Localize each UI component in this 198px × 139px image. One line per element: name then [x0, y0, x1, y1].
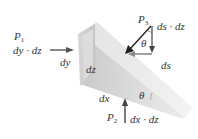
dz-label: dz — [86, 64, 96, 75]
dx-label: dx — [99, 93, 109, 104]
ds-label: ds — [161, 60, 171, 71]
p3-label: P3 — [138, 14, 148, 27]
p1-label: P1 — [14, 31, 24, 44]
p3-force-arrow — [125, 26, 151, 54]
p3-area-label: ds · dz — [157, 21, 185, 32]
p2-area-label: dx · dz — [130, 114, 158, 125]
theta-bottom-label: θ — [139, 90, 144, 101]
p1-subscript: 1 — [21, 36, 25, 44]
p2-subscript: 2 — [114, 117, 118, 125]
p2-label: P2 — [107, 112, 117, 125]
p2-force-arrow — [122, 98, 128, 123]
p3-subscript: 3 — [145, 19, 149, 27]
theta-top-label: θ — [141, 38, 146, 49]
p1-force-arrow — [50, 47, 74, 53]
p1-area-label: dy · dz — [13, 45, 41, 56]
p3-symbol: P — [138, 13, 145, 25]
dy-label: dy — [60, 57, 70, 68]
p2-symbol: P — [107, 111, 114, 123]
p1-symbol: P — [14, 30, 21, 42]
